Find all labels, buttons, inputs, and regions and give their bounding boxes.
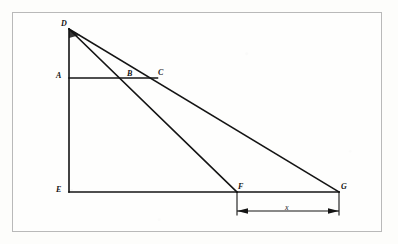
vertex-label-B: B bbox=[127, 70, 132, 78]
segment-DG bbox=[69, 29, 339, 192]
segment-DF bbox=[69, 29, 237, 192]
apex-ink-blob bbox=[69, 29, 80, 38]
vertex-label-G: G bbox=[341, 183, 347, 191]
dimension-arrow-left-icon bbox=[237, 208, 248, 213]
vertex-label-A: A bbox=[56, 72, 61, 80]
vertex-label-E: E bbox=[56, 186, 61, 194]
vertex-label-F: F bbox=[238, 183, 243, 191]
vertex-label-C: C bbox=[158, 69, 163, 77]
vertex-label-D: D bbox=[61, 20, 67, 28]
geometry-diagram-svg bbox=[0, 0, 398, 244]
dimension-label-x: x bbox=[285, 204, 289, 212]
figure-page: D A B C E F G x bbox=[0, 0, 398, 244]
dimension-arrow-right-icon bbox=[328, 208, 339, 213]
